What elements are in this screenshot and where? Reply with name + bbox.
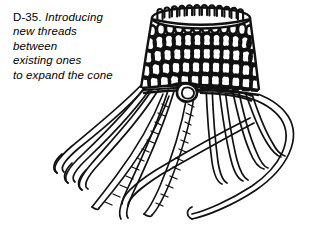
cone-body <box>139 5 262 95</box>
thread-loop-right <box>188 86 294 219</box>
figure-page: D-35. Introducing new threads between ex… <box>0 0 317 240</box>
cone-illustration <box>0 0 317 240</box>
thread-cross-left <box>122 118 254 206</box>
drawing-ink <box>54 5 294 219</box>
cone-rim <box>152 5 250 28</box>
braided-cord-center <box>144 96 194 216</box>
hanging-threads <box>54 80 294 219</box>
braid-ticks <box>156 104 194 206</box>
thread-left-2 <box>65 80 156 183</box>
